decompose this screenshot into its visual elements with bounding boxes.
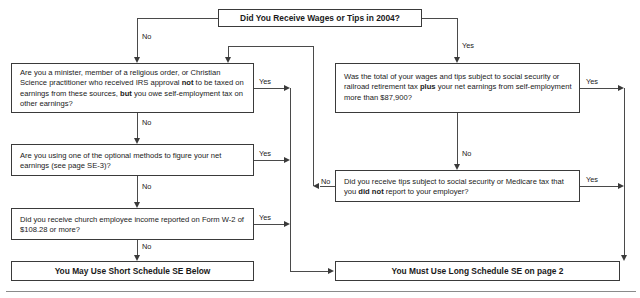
wages-tips-threshold-question-text: Was the total of your wages and tips sub… — [344, 72, 572, 102]
edge-right-yes-rail-arrowhead — [621, 255, 627, 261]
edge-q5-no-return-down — [228, 46, 229, 57]
edge-q5-yes-arrowhead — [618, 183, 624, 189]
edge-q1-yes-arrowhead — [284, 85, 290, 91]
edge-q4-no-vertical — [457, 113, 458, 164]
edge-right-yes-rail-vertical — [624, 88, 625, 255]
schedule-se-flowchart: Did You Receive Wages or Tips in 2004? A… — [0, 0, 640, 298]
long-schedule-outcome-text: You Must Use Long Schedule SE on page 2 — [391, 266, 563, 276]
edge-start-yes-vertical — [457, 18, 458, 57]
edge-q3-no-arrowhead — [134, 255, 140, 261]
edge-q3-yes-horizontal — [254, 224, 284, 225]
edge-q5-no-return-vertical — [313, 46, 314, 186]
bottom-divider — [6, 291, 636, 292]
edge-q5-yes-horizontal — [580, 186, 618, 187]
optional-methods-question-box: Are you using one of the optional method… — [11, 144, 254, 176]
edge-q2-no-arrowhead — [134, 202, 140, 208]
edge-left-yes-rail-bottom — [290, 271, 328, 272]
edge-q4-yes-arrowhead — [618, 85, 624, 91]
edge-label-q4-yes: Yes — [586, 78, 598, 86]
edge-q2-no-vertical — [137, 176, 138, 202]
short-schedule-outcome-box: You May Use Short Schedule SE Below — [11, 261, 254, 281]
optional-methods-question-text: Are you using one of the optional method… — [20, 151, 221, 170]
edge-q1-no-arrowhead — [134, 138, 140, 144]
edge-label-q3-yes: Yes — [259, 214, 271, 222]
minister-question-box: Are you a minister, member of a religiou… — [11, 63, 254, 113]
edge-q3-no-vertical — [137, 240, 138, 255]
edge-start-yes-arrowhead — [454, 57, 460, 63]
start-question-text: Did You Receive Wages or Tips in 2004? — [240, 13, 400, 23]
edge-label-start-yes: Yes — [462, 42, 474, 50]
wages-tips-threshold-question-box: Was the total of your wages and tips sub… — [335, 63, 580, 113]
edge-label-q2-no: No — [142, 183, 151, 191]
unreported-tips-question-text: Did you receive tips subject to social s… — [344, 177, 564, 196]
edge-q1-yes-horizontal — [254, 88, 284, 89]
edge-q5-no-return-top — [228, 46, 314, 47]
edge-start-no-arrowhead — [134, 57, 140, 63]
edge-label-q1-no: No — [142, 119, 151, 127]
edge-label-q5-yes: Yes — [586, 176, 598, 184]
minister-question-text: Are you a minister, member of a religiou… — [20, 68, 244, 108]
edge-q5-no-return-arrowhead — [225, 57, 231, 63]
edge-left-yes-rail-arrowhead — [328, 268, 334, 274]
church-income-question-text: Did you receive church employee income r… — [20, 215, 244, 234]
edge-start-no-vertical — [137, 18, 138, 57]
edge-label-q1-yes: Yes — [259, 78, 271, 86]
edge-q1-no-vertical — [137, 113, 138, 138]
edge-q3-yes-arrowhead — [284, 221, 290, 227]
unreported-tips-question-box: Did you receive tips subject to social s… — [335, 170, 580, 202]
start-question-box: Did You Receive Wages or Tips in 2004? — [218, 9, 422, 27]
edge-left-yes-rail-vertical — [290, 88, 291, 271]
church-income-question-box: Did you receive church employee income r… — [11, 208, 254, 240]
edge-label-q3-no: No — [142, 243, 151, 251]
edge-q2-yes-horizontal — [254, 160, 284, 161]
edge-q2-yes-arrowhead — [284, 157, 290, 163]
edge-start-no-horizontal — [137, 18, 218, 19]
edge-q4-no-arrowhead — [454, 164, 460, 170]
edge-label-q4-no: No — [462, 150, 471, 158]
edge-q5-no-horizontal — [320, 186, 335, 187]
edge-start-yes-horizontal — [422, 18, 458, 19]
edge-label-q2-yes: Yes — [259, 150, 271, 158]
short-schedule-outcome-text: You May Use Short Schedule SE Below — [55, 266, 211, 276]
edge-label-start-no: No — [142, 33, 151, 41]
edge-q4-yes-horizontal — [580, 88, 618, 89]
edge-q5-no-arrowhead — [313, 183, 319, 189]
long-schedule-outcome-box: You Must Use Long Schedule SE on page 2 — [335, 261, 620, 281]
edge-label-q5-no: No — [321, 178, 330, 186]
